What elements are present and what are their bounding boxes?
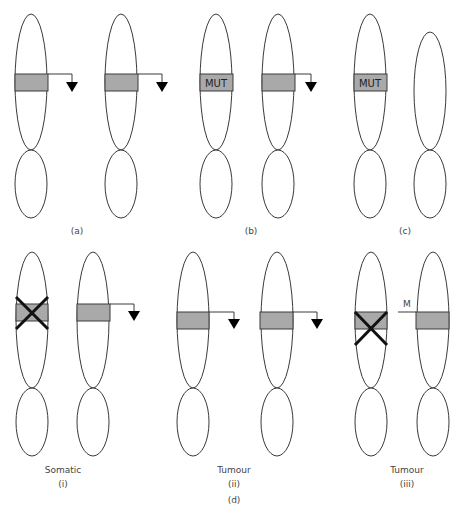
panel-b-label: (b) xyxy=(245,226,258,236)
panel-d-ii-title: Tumour xyxy=(216,465,251,475)
mut-label: MUT xyxy=(205,78,228,89)
gene-band xyxy=(15,74,48,91)
panel-b-chromosome-right xyxy=(262,14,317,218)
panel-d-ii-chromosome-left xyxy=(177,252,240,456)
panel-a-label: (a) xyxy=(71,226,84,236)
expression-arrow-icon xyxy=(311,319,323,329)
gene-band xyxy=(77,304,110,321)
panel-d-iii-title: Tumour xyxy=(389,465,424,475)
panel-d-i-title: Somatic xyxy=(45,465,82,475)
panel-d-i-chromosome-right xyxy=(77,252,140,456)
gene-band xyxy=(105,74,138,91)
gene-band xyxy=(262,74,295,91)
expression-arrow-icon xyxy=(66,82,78,92)
chromosome-diagram: (a) MUT (b) MUT (c) xyxy=(0,0,467,513)
panel-a-chromosome-left xyxy=(15,14,78,218)
panel-c-chromosome-left: MUT xyxy=(354,14,387,218)
panel-d-iii-chromosome-left xyxy=(355,252,387,456)
expression-arrow-icon xyxy=(128,311,140,321)
panel-d-i-chromosome-left xyxy=(16,252,48,456)
expression-arrow-icon xyxy=(156,82,168,92)
panel-a-chromosome-right xyxy=(105,14,168,218)
panel-d-iii-label: (iii) xyxy=(400,479,415,489)
gene-band xyxy=(260,312,293,329)
gene-band xyxy=(416,312,449,329)
gene-band xyxy=(177,312,209,329)
mut-label: MUT xyxy=(359,78,382,89)
panel-d-i-label: (i) xyxy=(58,479,68,489)
panel-b-chromosome-left: MUT xyxy=(200,14,233,218)
panel-c-label: (c) xyxy=(399,226,411,236)
expression-arrow-icon xyxy=(305,82,317,92)
panel-d-label: (d) xyxy=(228,495,241,505)
panel-d-iii-chromosome-right: M xyxy=(398,252,449,456)
panel-d-ii-chromosome-right xyxy=(260,252,323,456)
panel-c-chromosome-right-deleted xyxy=(414,32,446,218)
expression-arrow-icon xyxy=(228,319,240,329)
panel-d-ii-label: (ii) xyxy=(228,479,240,489)
marker-m-label: M xyxy=(403,299,411,309)
